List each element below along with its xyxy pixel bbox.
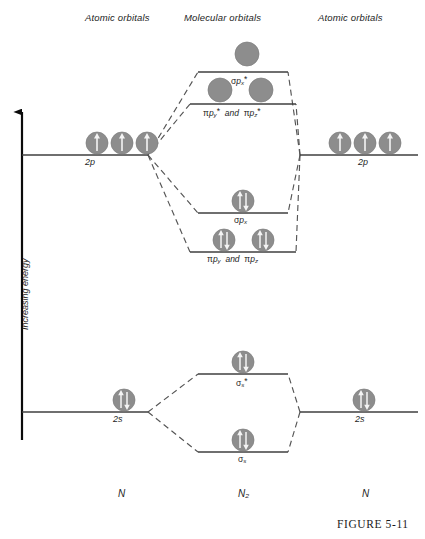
orbital-sphere-full: [213, 229, 235, 251]
figure-caption: FIGURE 5-11: [337, 518, 409, 530]
orbital-sphere-full: [232, 190, 254, 212]
level-label-pi: πpy and πpz: [207, 254, 258, 264]
orbital-group-2s-right: [353, 389, 375, 411]
orbital-sphere-empty: [208, 78, 232, 102]
axis-label-increasing-energy: Increasing energy: [20, 258, 30, 330]
level-label-sigma-s-star: σs*: [236, 376, 248, 388]
level-label-pi-star: πpy* and πpz*: [203, 106, 261, 118]
level-label-sigma-px: σpx: [234, 215, 247, 225]
orbital-group-sigma-s: [232, 429, 254, 451]
header-atomic-orbitals-right: Atomic orbitals: [318, 12, 383, 23]
mo-diagram-root: Atomic orbitals Molecular orbitals Atomi…: [0, 0, 425, 539]
orbital-group-2p-right: [329, 132, 401, 154]
orbital-group-2s-left: [113, 389, 135, 411]
correlation-lines-s: [148, 374, 300, 452]
orbital-sphere-full: [353, 389, 375, 411]
level-label-sigma-px-star: σpx*: [231, 74, 247, 86]
orbital-sphere-full: [113, 389, 135, 411]
orbital-sphere-full: [232, 429, 254, 451]
orbital-sphere-half: [329, 132, 351, 154]
level-label-2s-left: 2s: [113, 414, 123, 424]
orbital-sphere-half: [111, 132, 133, 154]
orbital-group-sigma-px: [232, 190, 254, 212]
orbital-group-2p-left: [86, 132, 158, 154]
species-label-center: N₂: [238, 488, 249, 499]
mo-diagram-svg: [0, 0, 425, 539]
species-label-left: N: [118, 488, 125, 499]
level-label-2p-right: 2p: [358, 157, 368, 167]
orbital-sphere-empty: [249, 78, 273, 102]
header-molecular-orbitals: Molecular orbitals: [184, 12, 261, 23]
orbital-sphere-full: [252, 229, 274, 251]
orbital-sphere-full: [232, 351, 254, 373]
orbital-sphere-empty: [235, 42, 259, 66]
orbital-sphere-half: [354, 132, 376, 154]
orbital-sphere-half: [86, 132, 108, 154]
level-label-sigma-s: σs: [238, 454, 246, 464]
orbital-group-pi: [213, 229, 274, 251]
level-label-2s-right: 2s: [355, 414, 365, 424]
orbital-group-sigma-s-star: [232, 351, 254, 373]
orbital-group-sigma-px-star: [235, 42, 259, 66]
level-label-2p-left: 2p: [85, 157, 95, 167]
orbital-sphere-half: [379, 132, 401, 154]
orbital-sphere-half: [136, 132, 158, 154]
species-label-right: N: [362, 488, 369, 499]
header-atomic-orbitals-left: Atomic orbitals: [85, 12, 150, 23]
